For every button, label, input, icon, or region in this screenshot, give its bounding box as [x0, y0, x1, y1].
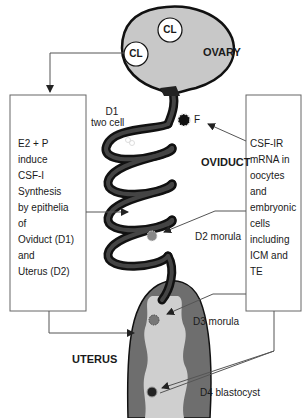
- left-box-line: E2 + P: [18, 136, 74, 152]
- right-box-line: TE: [250, 264, 296, 280]
- left-box-line: and: [18, 248, 74, 264]
- d3-morula-icon: [149, 315, 159, 325]
- left-box-line: induce: [18, 152, 74, 168]
- two-cell-label: two cell: [91, 117, 124, 129]
- right-box-text: CSF-IR mRNA in oocytes and embryonic cel…: [250, 136, 296, 280]
- d2-morula-label: D2 morula: [195, 231, 241, 243]
- ovary-label: OVARY: [203, 46, 241, 58]
- right-box-line: oocytes: [250, 168, 296, 184]
- right-box-line: ICM and: [250, 248, 296, 264]
- left-box-line: CSF-I: [18, 168, 74, 184]
- right-box-line: CSF-IR: [250, 136, 296, 152]
- right-box-line: including: [250, 232, 296, 248]
- right-box-line: and: [250, 184, 296, 200]
- right-box-line: cells: [250, 216, 296, 232]
- fertilized-oocyte-icon: [178, 114, 190, 126]
- left-box-line: Oviduct (D1): [18, 232, 74, 248]
- two-cell-embryo-icon: [126, 138, 135, 146]
- uterus-label: UTERUS: [72, 353, 117, 365]
- left-box-line: Uterus (D2): [18, 264, 74, 280]
- left-box-line: Synthesis: [18, 184, 74, 200]
- fertilization-label: F: [194, 114, 200, 126]
- right-box-line: embryonic: [250, 200, 296, 216]
- left-box-line: of: [18, 216, 74, 232]
- oviduct-label: OVIDUCT: [201, 156, 251, 168]
- d2-morula-icon: [147, 231, 157, 241]
- d4-blastocyst-label: D4 blastocyst: [200, 387, 260, 399]
- corpus-luteum-label: CL: [158, 18, 182, 42]
- d4-blastocyst-icon: [147, 387, 157, 397]
- left-box-line: by epithelia: [18, 200, 74, 216]
- d3-morula-label: D3 morula: [193, 316, 239, 328]
- left-box-text: E2 + P induce CSF-I Synthesis by epithel…: [18, 136, 74, 280]
- right-box-line: mRNA in: [250, 152, 296, 168]
- corpus-luteum-label: CL: [124, 42, 148, 66]
- uterus-shape: [128, 281, 211, 418]
